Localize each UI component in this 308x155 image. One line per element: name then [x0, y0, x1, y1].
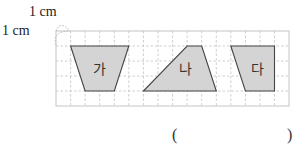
shape-label-na: 나 — [179, 61, 192, 77]
unit-cell-indicator-top — [56, 26, 70, 32]
grid-figure: 가 나 다 — [0, 0, 308, 155]
unit-cell-indicator — [55, 31, 70, 45]
shape-label-da: 다 — [251, 61, 264, 77]
answer-open-paren: ( — [172, 126, 177, 144]
shape-label-ga: 가 — [93, 61, 106, 77]
answer-close-paren: ) — [287, 126, 292, 144]
